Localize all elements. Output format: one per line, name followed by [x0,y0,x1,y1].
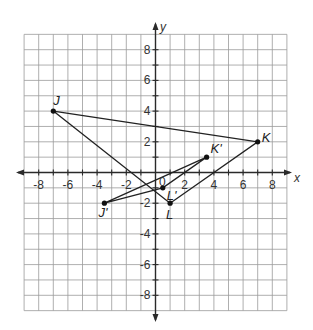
x-tick-label: -4 [92,178,103,192]
vertex-label: L [166,207,173,222]
y-tick-label: 8 [144,43,151,57]
y-tick-label: -6 [140,258,151,272]
x-axis-right-arrow-icon [284,170,292,176]
x-tick-label: 8 [269,178,276,192]
y-tick-label: 2 [144,135,151,149]
x-tick-label: 2 [181,178,188,192]
x-tick-label: -8 [33,178,44,192]
x-axis-left-arrow-icon [16,170,24,176]
x-tick-label: -6 [63,178,74,192]
x-tick-label: 4 [211,178,218,192]
vertex-point [204,155,209,160]
y-axis-label: y [159,20,167,34]
coordinate-plane: -8-6-4-224688642-2-4-6-8 JKLJ'K'L' x y 0 [0,0,313,330]
y-tick-label: 6 [144,73,151,87]
vertex-point [255,139,260,144]
y-axis-up-arrow-icon [153,22,159,30]
x-tick-label: 6 [240,178,247,192]
y-tick-label: -2 [140,196,151,210]
vertex-label: L' [167,188,177,203]
x-tick-label: -2 [121,178,132,192]
vertex-label: J' [97,205,108,220]
y-axis-down-arrow-icon [153,314,159,322]
vertex-label: J [52,93,60,108]
vertex-label: K' [211,141,223,156]
x-axis-label: x [293,171,301,185]
axes [16,22,292,322]
vertex-point [51,109,56,114]
y-tick-label: -4 [140,227,151,241]
y-tick-label: 4 [144,104,151,118]
y-tick-label: -8 [140,288,151,302]
origin-label: 0 [159,175,166,189]
vertex-label: K [262,130,272,145]
